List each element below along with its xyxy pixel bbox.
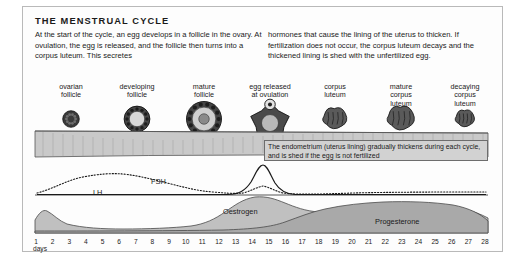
day-tick-3: 3 bbox=[62, 238, 76, 245]
day-tick-20: 20 bbox=[345, 238, 359, 245]
day-tick-17: 17 bbox=[295, 238, 309, 245]
day-tick-10: 10 bbox=[179, 238, 193, 245]
day-tick-28: 28 bbox=[478, 238, 492, 245]
day-tick-11: 11 bbox=[195, 238, 209, 245]
diagram-panel: THE MENSTRUAL CYCLE At the start of the … bbox=[22, 6, 503, 252]
day-tick-12: 12 bbox=[212, 238, 226, 245]
day-tick-2: 2 bbox=[46, 238, 60, 245]
day-tick-21: 21 bbox=[362, 238, 376, 245]
day-tick-26: 26 bbox=[445, 238, 459, 245]
day-tick-15: 15 bbox=[262, 238, 276, 245]
endometrium-note: The endometrium (uterus lining) graduall… bbox=[264, 140, 488, 161]
day-tick-13: 13 bbox=[229, 238, 243, 245]
lh-label: LH bbox=[93, 188, 102, 197]
lh-curve bbox=[37, 165, 486, 195]
axis-unit-label: days bbox=[33, 245, 47, 252]
day-tick-14: 14 bbox=[245, 238, 259, 245]
cycle-graph-svg bbox=[23, 7, 502, 251]
day-tick-19: 19 bbox=[328, 238, 342, 245]
endometrium-note-text: The endometrium (uterus lining) graduall… bbox=[265, 141, 487, 161]
day-tick-16: 16 bbox=[278, 238, 292, 245]
progesterone-label: Progesterone bbox=[375, 217, 419, 226]
day-tick-7: 7 bbox=[129, 238, 143, 245]
day-tick-5: 5 bbox=[96, 238, 110, 245]
day-tick-18: 18 bbox=[312, 238, 326, 245]
day-tick-25: 25 bbox=[428, 238, 442, 245]
day-tick-6: 6 bbox=[112, 238, 126, 245]
fsh-label: FSH bbox=[151, 177, 166, 186]
day-tick-24: 24 bbox=[411, 238, 425, 245]
day-tick-4: 4 bbox=[79, 238, 93, 245]
day-tick-9: 9 bbox=[162, 238, 176, 245]
day-tick-1: 1 bbox=[29, 238, 43, 245]
day-tick-23: 23 bbox=[395, 238, 409, 245]
diagram-stage: THE MENSTRUAL CYCLE At the start of the … bbox=[23, 7, 502, 251]
day-tick-27: 27 bbox=[461, 238, 475, 245]
day-tick-22: 22 bbox=[378, 238, 392, 245]
fsh-curve bbox=[37, 174, 486, 195]
oestrogen-label: Oestrogen bbox=[223, 207, 258, 216]
day-tick-8: 8 bbox=[145, 238, 159, 245]
